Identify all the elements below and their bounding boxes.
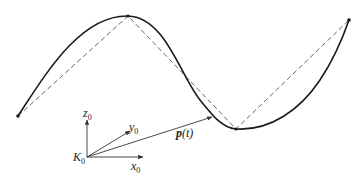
control-point-end bbox=[347, 18, 351, 22]
z-axis-label: z0 bbox=[82, 106, 92, 122]
control-point-valley bbox=[234, 127, 237, 130]
trajectory-curve bbox=[18, 16, 349, 129]
x-axis-label: x0 bbox=[130, 159, 140, 175]
position-vector-label: p(t) bbox=[175, 126, 193, 140]
y-axis-arrow bbox=[87, 131, 130, 157]
trajectory-diagram: z0 y0 x0 K0 p(t) bbox=[0, 0, 359, 181]
control-point-peak bbox=[126, 14, 129, 17]
control-point-start bbox=[16, 114, 20, 118]
y-axis-label: y0 bbox=[128, 120, 138, 136]
origin-label: K0 bbox=[72, 150, 85, 166]
